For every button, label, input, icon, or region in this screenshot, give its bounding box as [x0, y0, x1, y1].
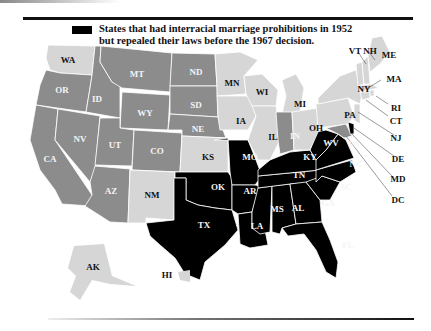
label-mo: MO: [242, 152, 258, 162]
label-nc: NC: [350, 159, 363, 169]
label-ia: IA: [236, 116, 247, 126]
label-il: IL: [268, 132, 278, 142]
label-al: AL: [292, 203, 305, 213]
label-az: AZ: [105, 186, 118, 196]
label-ct: CT: [390, 116, 403, 126]
label-nm: NM: [145, 190, 160, 200]
label-wa: WA: [61, 55, 76, 65]
label-ne: NE: [192, 124, 205, 134]
label-la: LA: [251, 221, 264, 231]
label-oh: OH: [309, 123, 323, 133]
label-ri: RI: [391, 103, 401, 113]
label-ok: OK: [211, 182, 225, 192]
label-mn: MN: [225, 78, 240, 88]
label-pa: PA: [344, 110, 356, 120]
label-tn: TN: [293, 170, 306, 180]
label-de: DE: [392, 154, 405, 164]
label-id: ID: [92, 94, 103, 104]
label-nv: NV: [74, 134, 87, 144]
label-wy: WY: [137, 108, 153, 118]
label-ms: MS: [270, 204, 284, 214]
label-or: OR: [55, 85, 69, 95]
label-in: IN: [290, 131, 301, 141]
bottom-rule: [48, 318, 414, 320]
label-fl: FL: [342, 240, 354, 250]
state-ak: [68, 244, 136, 300]
label-vt: VT: [349, 46, 362, 56]
label-md: MD: [391, 174, 406, 184]
label-ga: GA: [321, 198, 335, 208]
label-wv: WV: [323, 138, 339, 148]
label-dc: DC: [392, 195, 405, 205]
state-ny: [318, 70, 362, 104]
label-ky: KY: [303, 152, 317, 162]
label-me: ME: [382, 50, 397, 60]
state-hi: [178, 270, 190, 282]
label-ut: UT: [109, 140, 122, 150]
label-mi: MI: [294, 99, 306, 109]
label-co: CO: [150, 146, 164, 156]
label-va: VA: [348, 139, 360, 149]
label-sc: SC: [340, 182, 352, 192]
label-sd: SD: [190, 100, 202, 110]
label-tx: TX: [198, 220, 211, 230]
label-nh: NH: [363, 46, 377, 56]
label-nj: NJ: [391, 133, 402, 143]
label-ar: AR: [244, 186, 257, 196]
label-ca: CA: [44, 154, 57, 164]
label-wi: WI: [256, 87, 269, 97]
label-hi: HI: [162, 270, 173, 280]
label-ma: MA: [387, 74, 402, 84]
label-nd: ND: [190, 67, 203, 77]
us-map: WA OR CA ID NV MT WY UT CO AZ NM ND SD N…: [0, 0, 431, 331]
label-ny: NY: [358, 84, 371, 94]
state-ri: [370, 90, 374, 96]
label-ks: KS: [202, 152, 214, 162]
state-fl: [282, 222, 338, 278]
label-ak: AK: [86, 262, 100, 272]
label-mt: MT: [130, 69, 145, 79]
